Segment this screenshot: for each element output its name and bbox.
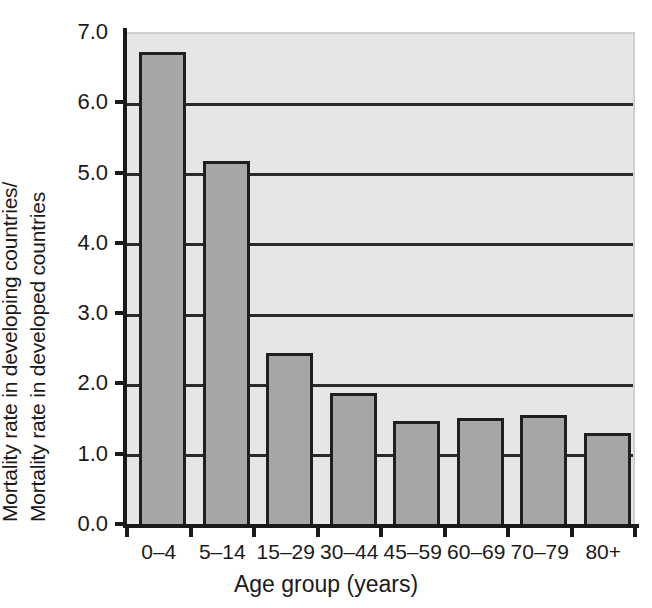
y-axis-tick-mark bbox=[115, 171, 127, 175]
x-axis-tick-mark bbox=[506, 526, 510, 537]
y-axis-title-line-1: Mortality rate in developing countries/ bbox=[0, 182, 22, 522]
x-axis-tick-label: 15–29 bbox=[257, 540, 315, 564]
y-axis-tick-labels: 7.06.05.04.03.02.01.00.0 bbox=[54, 32, 116, 524]
y-axis-tick-label: 4.0 bbox=[77, 230, 108, 256]
x-axis-title: Age group (years) bbox=[0, 571, 652, 598]
x-axis-tick-mark bbox=[633, 526, 637, 537]
x-axis-tick-label: 30–44 bbox=[320, 540, 378, 564]
x-axis-tick-label: 80+ bbox=[585, 540, 621, 564]
x-axis-tick-label: 5–14 bbox=[199, 540, 246, 564]
x-axis-tick-mark bbox=[125, 526, 129, 537]
y-axis-tick-label: 1.0 bbox=[77, 441, 108, 467]
bars-group bbox=[127, 34, 633, 524]
bar[interactable] bbox=[457, 418, 504, 524]
x-axis-tick-mark bbox=[443, 526, 447, 537]
bar[interactable] bbox=[393, 421, 440, 524]
y-axis-tick-label: 0.0 bbox=[77, 511, 108, 537]
x-axis-tick-mark bbox=[252, 526, 256, 537]
y-axis-title-line-2: Mortality rate in developed countries bbox=[26, 192, 50, 522]
x-axis-tick-label: 70–79 bbox=[511, 540, 569, 564]
x-axis-tick-label: 0–4 bbox=[141, 540, 176, 564]
y-axis-tick-mark bbox=[115, 100, 127, 104]
x-axis-tick-mark bbox=[189, 526, 193, 537]
bar[interactable] bbox=[584, 433, 631, 524]
bar[interactable] bbox=[330, 393, 377, 524]
y-axis-tick-mark bbox=[115, 452, 127, 456]
x-axis-tick-label: 60–69 bbox=[447, 540, 505, 564]
y-axis-tick-label: 2.0 bbox=[77, 370, 108, 396]
y-axis-tick-mark bbox=[115, 241, 127, 245]
y-axis-tick-label: 6.0 bbox=[77, 89, 108, 115]
y-axis-title: Mortality rate in developing countries/ … bbox=[0, 0, 58, 530]
y-axis-tick-label: 7.0 bbox=[77, 19, 108, 45]
y-axis-tick-mark bbox=[115, 311, 127, 315]
bar[interactable] bbox=[520, 415, 567, 524]
bar[interactable] bbox=[203, 161, 250, 524]
x-axis-tick-mark bbox=[379, 526, 383, 537]
y-axis-tick-label: 3.0 bbox=[77, 300, 108, 326]
bar[interactable] bbox=[266, 353, 313, 524]
x-axis-tick-mark bbox=[570, 526, 574, 537]
chart-figure: Mortality rate in developing countries/ … bbox=[0, 0, 652, 608]
y-axis-tick-mark bbox=[115, 381, 127, 385]
x-axis-tick-label: 45–59 bbox=[384, 540, 442, 564]
plot-area bbox=[127, 32, 635, 524]
bar[interactable] bbox=[139, 52, 186, 524]
y-axis-tick-label: 5.0 bbox=[77, 160, 108, 186]
x-axis-tick-mark bbox=[316, 526, 320, 537]
